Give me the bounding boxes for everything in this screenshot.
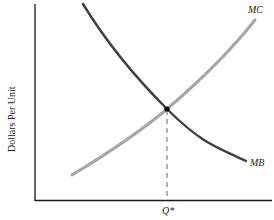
equilibrium-point (164, 106, 169, 111)
mc-label: MC (247, 4, 263, 15)
qstar-label: Q* (162, 205, 174, 216)
y-axis-label: Dollars Per Unit (6, 86, 17, 152)
mb-curve (83, 4, 246, 161)
mb-label: MB (249, 157, 264, 168)
mc-mb-chart: MC MB Q* Dollars Per Unit (0, 0, 274, 220)
